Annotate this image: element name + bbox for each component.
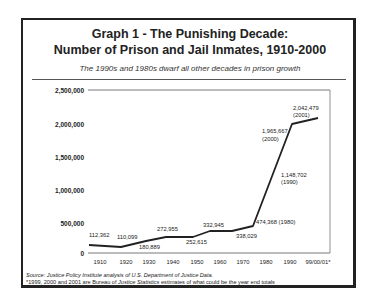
data-label: 2,042,479 [293,105,319,111]
y-tick-label: 2,000,000 [55,121,84,129]
data-label: (1990) [281,179,298,185]
x-tick-label: 1920 [120,259,133,265]
data-label: (2000) [262,136,279,142]
x-tick-label: 1960 [214,259,227,265]
x-tick-label: 1930 [143,259,156,265]
data-label: (2001) [293,112,310,118]
data-label: 1,965,667 [262,128,288,134]
footnote-part: estimates of what could be the year end … [159,279,274,285]
data-label: 110,099 [117,234,138,240]
data-label: 474,368 (1980) [256,219,295,225]
source-note: Source: Justice Policy Institute analysi… [26,272,213,278]
footnote-part: *1999, 2000 and 2001 are Bureau of [26,279,118,285]
footnote-agency: Justice Statistics [118,279,159,285]
x-tick-label: 1970 [237,259,250,265]
x-tick-label: 1910 [94,259,107,265]
x-tick-label: 99/00/01* [306,259,332,265]
y-tick-label: 0 [80,250,84,257]
x-tick-label: 1950 [191,259,204,265]
data-label: 112,362 [89,232,110,238]
y-tick-label: 500,000 [61,220,85,228]
line-chart: 2,500,000 2,000,000 1,500,000 1,000,000 … [0,0,380,306]
data-label: 252,615 [186,239,207,245]
y-tick-label: 1,000,000 [55,187,84,195]
data-label: 180,889 [139,244,160,250]
y-tick-label: 1,500,000 [55,154,84,162]
data-label: 1,148,702 [281,172,307,178]
x-tick-label: 1980 [260,259,273,265]
data-label: 338,029 [236,233,257,239]
data-label: 272,955 [157,226,178,232]
y-tick-label: 2,500,000 [55,87,84,95]
x-tick-label: 1990 [284,259,297,265]
x-tick-label: 1940 [167,259,180,265]
footnote: *1999, 2000 and 2001 are Bureau of Justi… [26,279,275,285]
data-label: 332,945 [203,222,224,228]
